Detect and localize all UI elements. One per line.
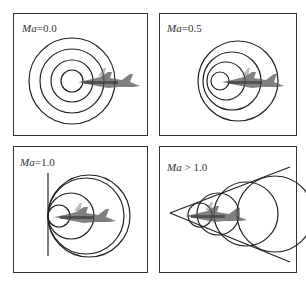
wavefronts-supersonic (170, 167, 306, 262)
aircraft-icon (222, 68, 284, 88)
aircraft-icon (78, 68, 140, 88)
diagram-drawing (0, 0, 306, 281)
